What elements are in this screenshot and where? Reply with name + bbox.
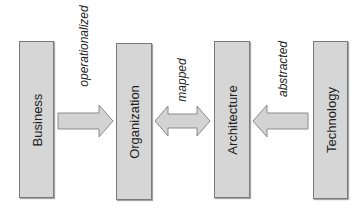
edge-label-operationalized: operationalized [77, 5, 91, 86]
arrows-layer [0, 0, 364, 210]
edge-label-abstracted: abstracted [276, 41, 290, 97]
right-arrow-icon [58, 105, 113, 137]
edge-label-mapped: mapped [175, 58, 189, 101]
left-arrow-icon [253, 105, 308, 137]
double-arrow-icon [155, 106, 210, 136]
